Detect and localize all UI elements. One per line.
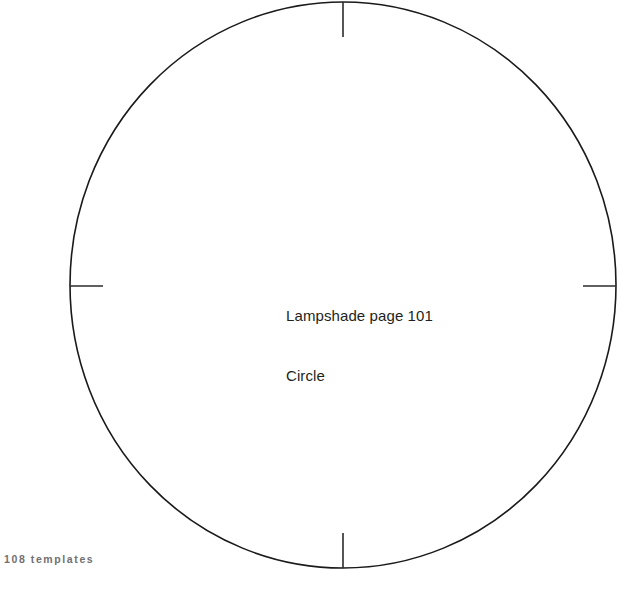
page-footer: 108 templates [4,553,94,565]
template-page: Lampshade page 101 Circle 108 templates [0,0,623,593]
template-label-line-2: Circle [286,366,433,386]
template-label-line-1: Lampshade page 101 [286,306,433,326]
template-label: Lampshade page 101 Circle [286,266,433,426]
